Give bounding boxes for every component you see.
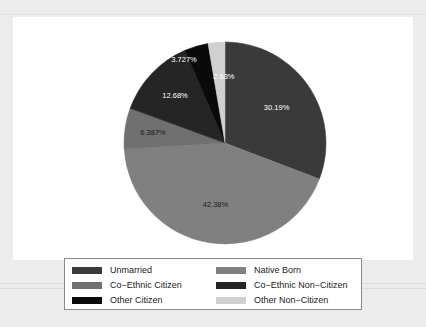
legend-item-label: Other Citizen (110, 296, 163, 305)
legend-color-swatch (215, 296, 247, 305)
legend-color-swatch (215, 281, 247, 290)
legend-item: Other Citizen (71, 293, 211, 307)
legend-item: Co−Ethnic Non−Citizen (215, 278, 355, 292)
legend-item-label: Co−Ethnic Citizen (110, 281, 182, 290)
legend-grid: UnmarriedNative BornCo−Ethnic CitizenCo−… (71, 263, 355, 305)
legend-item: Co−Ethnic Citizen (71, 278, 211, 292)
pie-slice-value-label: 42.38% (203, 200, 229, 209)
legend-item: Other Non−Citizen (215, 293, 355, 307)
legend-color-swatch (71, 281, 103, 290)
legend-color-swatch (215, 266, 247, 275)
legend-item: Unmarried (71, 263, 211, 277)
legend-item-label: Other Non−Citizen (254, 296, 328, 305)
pie-slice-value-label: 30.19% (264, 103, 290, 112)
pie-chart-svg: 30.19%42.38%6.387%12.68%3.727%2.63% (123, 41, 327, 245)
background-scanline (0, 14, 426, 15)
chart-panel: 30.19%42.38%6.387%12.68%3.727%2.63% (13, 17, 413, 260)
chart-legend: UnmarriedNative BornCo−Ethnic CitizenCo−… (64, 258, 362, 310)
legend-color-swatch (71, 296, 103, 305)
legend-item-label: Native Born (254, 266, 301, 275)
pie-slice-value-label: 3.727% (171, 55, 197, 64)
pie-slice-value-label: 6.387% (140, 128, 166, 137)
legend-item-label: Co−Ethnic Non−Citizen (254, 281, 348, 290)
pie-slice-value-label: 2.63% (213, 72, 235, 81)
screenshot-root: 30.19%42.38%6.387%12.68%3.727%2.63% Unma… (0, 0, 426, 327)
legend-color-swatch (71, 266, 103, 275)
legend-item: Native Born (215, 263, 355, 277)
legend-item-label: Unmarried (110, 266, 152, 275)
pie-slice-value-label: 12.68% (162, 91, 188, 100)
pie-chart: 30.19%42.38%6.387%12.68%3.727%2.63% (123, 41, 327, 245)
